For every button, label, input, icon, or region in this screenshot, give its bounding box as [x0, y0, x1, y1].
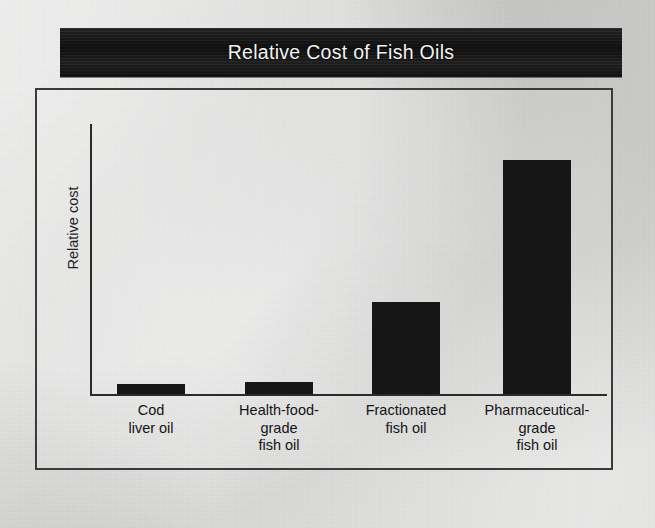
bar-1 [245, 382, 313, 394]
category-label-1: Health-food-gradefish oil [209, 402, 349, 455]
bar-2 [372, 302, 440, 394]
x-axis-line [90, 394, 607, 396]
category-label-1-line-0: Health-food- [209, 402, 349, 420]
category-label-2-line-1: fish oil [336, 420, 476, 438]
chart-title-text: Relative Cost of Fish Oils [228, 41, 455, 64]
bar-0 [117, 384, 185, 394]
figure-page: Relative Cost of Fish Oils Relative cost… [0, 0, 655, 528]
category-label-1-line-1: grade [209, 420, 349, 438]
category-label-0: Codliver oil [81, 402, 221, 437]
y-axis-title: Relative cost [65, 168, 81, 288]
category-label-2: Fractionatedfish oil [336, 402, 476, 437]
category-label-1-line-2: fish oil [209, 437, 349, 455]
category-label-2-line-0: Fractionated [336, 402, 476, 420]
category-label-3: Pharmaceutical-gradefish oil [467, 402, 607, 455]
category-label-3-line-2: fish oil [467, 437, 607, 455]
bar-3 [503, 160, 571, 394]
category-label-3-line-1: grade [467, 420, 607, 438]
chart-title-banner: Relative Cost of Fish Oils [60, 28, 622, 77]
chart-frame: Relative cost Codliver oilHealth-food-gr… [35, 88, 613, 470]
y-axis-line [90, 124, 92, 396]
category-label-0-line-1: liver oil [81, 420, 221, 438]
category-label-0-line-0: Cod [81, 402, 221, 420]
category-label-3-line-0: Pharmaceutical- [467, 402, 607, 420]
